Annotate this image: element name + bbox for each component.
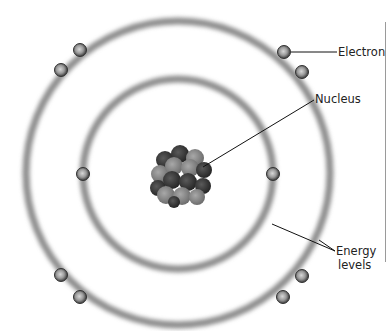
electron-icon — [267, 168, 280, 181]
electron-icon — [77, 168, 90, 181]
electron-icon — [55, 64, 68, 77]
electron-icon — [74, 44, 87, 57]
energy-levels-label-line1: Energy — [336, 244, 376, 258]
nucleus-label: Nucleus — [315, 92, 361, 106]
nucleus-leader-line — [203, 100, 314, 167]
electron-label: Electron — [338, 45, 385, 59]
electron-icon — [277, 291, 290, 304]
nucleus — [150, 145, 212, 208]
electron-icon — [278, 46, 291, 59]
energy-levels-label-line2: levels — [338, 258, 371, 272]
electron-icon — [74, 291, 87, 304]
electron-icon — [296, 270, 309, 283]
electron-icon — [296, 66, 309, 79]
atom-diagram — [0, 0, 390, 331]
electron-icon — [55, 269, 68, 282]
energy-leader-line-inner — [272, 224, 335, 251]
